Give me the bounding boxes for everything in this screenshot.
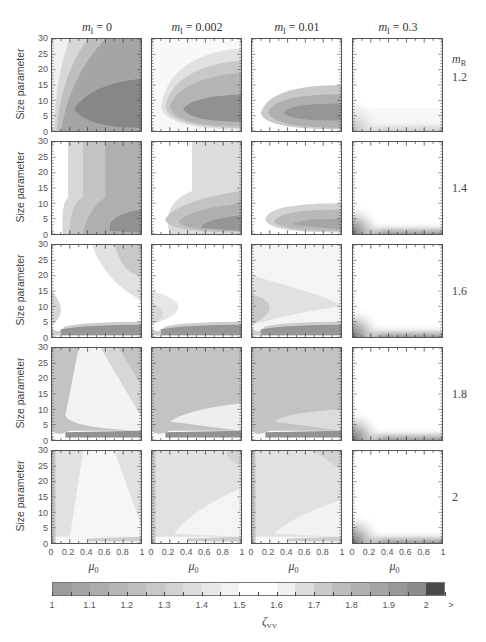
- colorbar-minor-tick: [220, 592, 221, 596]
- colorbar-tick: [164, 592, 165, 596]
- contour-panel-r1-c1: [151, 141, 242, 235]
- colorbar-minor-tick: [183, 592, 184, 596]
- contour-plot: [152, 39, 241, 131]
- colorbar-segment: [183, 583, 202, 595]
- x-tick-label: 1: [441, 547, 446, 557]
- colorbar-minor-tick: [71, 592, 72, 596]
- y-tick-label: 10: [34, 302, 48, 312]
- x-axis-label: μ0: [189, 559, 199, 575]
- contour-panel-r2-c3: [352, 244, 443, 338]
- contour-plot: [252, 39, 341, 131]
- contour-panel-r2-c2: [251, 244, 342, 338]
- contour-panel-r2-c1: [151, 244, 242, 338]
- contour-panel-r0-c3: [352, 38, 443, 132]
- colorbar-minor-tick: [408, 592, 409, 596]
- x-tick-label: 0.2: [262, 547, 275, 557]
- y-tick-label: 5: [34, 523, 48, 533]
- column-title-var: m: [82, 20, 91, 34]
- colorbar-tick: [89, 592, 90, 596]
- contour-plot: [252, 245, 341, 337]
- contour-panel-r4-c2: [251, 450, 342, 544]
- colorbar-tick: [239, 592, 240, 596]
- contour-plot: [353, 348, 442, 440]
- y-axis-label: Size parameter: [14, 346, 26, 440]
- colorbar-tick: [127, 592, 128, 596]
- colorbar-tick: [202, 592, 203, 596]
- contour-panel-r1-c3: [352, 141, 443, 235]
- x-tick-label: 0: [249, 547, 254, 557]
- column-title-1: mI = 0.002: [151, 20, 243, 36]
- x-axis-label-sub: 0: [295, 566, 299, 575]
- x-tick-label: 0.4: [80, 547, 93, 557]
- colorbar-tick-label: >: [448, 600, 453, 610]
- x-tick-label: 0.4: [180, 547, 193, 557]
- colorbar-tick: [277, 592, 278, 596]
- y-tick-label: 10: [34, 96, 48, 106]
- colorbar-segment: [388, 583, 407, 595]
- contour-plot: [152, 245, 241, 337]
- contour-plot: [152, 142, 241, 234]
- colorbar-minor-tick: [370, 592, 371, 596]
- x-tick-label: 0.6: [98, 547, 111, 557]
- colorbar-segment: [426, 583, 445, 595]
- y-axis-label: Size parameter: [14, 37, 26, 131]
- contour-plot: [353, 142, 442, 234]
- row-label-mr: 1.4: [452, 181, 467, 196]
- x-tick-label: 0.8: [417, 547, 430, 557]
- x-tick-label: 0.2: [162, 547, 175, 557]
- x-axis-label: μ0: [89, 559, 99, 575]
- colorbar-minor-tick: [258, 592, 259, 596]
- row-header-sub: R: [461, 59, 466, 68]
- y-tick-label: 30: [34, 445, 48, 455]
- x-tick-label: 0.4: [381, 547, 394, 557]
- y-tick-label: 5: [34, 420, 48, 430]
- colorbar-tick: [426, 592, 427, 596]
- x-tick-label: 0.6: [399, 547, 412, 557]
- colorbar-segment: [370, 583, 389, 595]
- contour-panel-r4-c3: [352, 450, 443, 544]
- y-tick-label: 10: [34, 405, 48, 415]
- y-tick-label: 10: [34, 508, 48, 518]
- column-title-2: mI = 0.01: [251, 20, 343, 36]
- y-tick-label: 15: [34, 286, 48, 296]
- colorbar-tick-label: 1.8: [345, 600, 358, 610]
- y-tick-label: 30: [34, 136, 48, 146]
- x-tick-label: 1: [140, 547, 145, 557]
- y-tick-label: 5: [34, 111, 48, 121]
- colorbar-tick-label: 1.3: [158, 600, 171, 610]
- colorbar-tick-label: 1.1: [83, 600, 96, 610]
- column-title-0: mI = 0: [51, 20, 143, 36]
- x-tick-label: 0.6: [198, 547, 211, 557]
- y-tick-label: 20: [34, 64, 48, 74]
- colorbar-segment: [332, 583, 351, 595]
- colorbar-segment: [277, 583, 296, 595]
- colorbar-segment: [146, 583, 165, 595]
- y-tick-label: 5: [34, 214, 48, 224]
- x-tick-label: 0.8: [316, 547, 329, 557]
- y-tick-label: 15: [34, 389, 48, 399]
- colorbar-minor-tick: [108, 592, 109, 596]
- contour-plot: [52, 245, 141, 337]
- row-header: mR: [452, 52, 466, 68]
- column-title-var: m: [274, 20, 283, 34]
- contour-plot: [152, 451, 241, 543]
- x-tick-label: 0.2: [363, 547, 376, 557]
- y-tick-label: 25: [34, 49, 48, 59]
- x-axis-label-sub: 0: [195, 566, 199, 575]
- colorbar-segment: [202, 583, 221, 595]
- colorbar-segment: [221, 583, 240, 595]
- x-tick-label: 0: [350, 547, 355, 557]
- colorbar-tick-label: 1.6: [270, 600, 283, 610]
- y-tick-label: 20: [34, 167, 48, 177]
- contour-panel-r3-c2: [251, 347, 342, 441]
- colorbar-segment: [128, 583, 147, 595]
- contour-plot: [252, 348, 341, 440]
- contour-panel-r1-c2: [251, 141, 342, 235]
- colorbar-tick-label: 1: [49, 600, 54, 610]
- x-tick-label: 1: [240, 547, 245, 557]
- contour-panel-r2-c0: [51, 244, 142, 338]
- row-header-var: m: [452, 52, 461, 66]
- colorbar-tick-label: 2: [424, 600, 429, 610]
- x-tick-label: 0.2: [62, 547, 75, 557]
- y-tick-label: 25: [34, 358, 48, 368]
